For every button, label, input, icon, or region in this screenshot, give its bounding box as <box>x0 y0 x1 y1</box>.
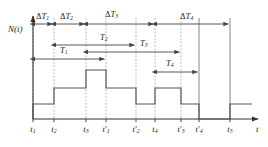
tick-label-t4p: t′4 <box>195 124 202 134</box>
step-function-curve <box>33 70 252 119</box>
step-curve <box>33 70 252 119</box>
interval-label-dT4: ΔT4 <box>180 11 193 21</box>
tick-label-t2: t2 <box>51 124 56 134</box>
interval-label-T4: T4 <box>166 58 174 68</box>
tick-label-t4: t4 <box>152 124 157 134</box>
interval-label-T3: T3 <box>140 38 148 48</box>
interval-label-dT3: ΔT3 <box>105 9 118 19</box>
tick-label-t2p: t′2 <box>132 124 139 134</box>
tick-label-t3: t3 <box>83 124 88 134</box>
interval-label-dT2: ΔT2 <box>60 11 73 21</box>
tick-label-t3p: t′3 <box>177 124 184 134</box>
interval-label-T1: T1 <box>60 45 68 55</box>
y-axis-label: N(t) <box>8 24 23 34</box>
interval-label-T2: T2 <box>100 32 108 42</box>
x-axis-label: t <box>256 124 259 134</box>
gridline-group <box>33 18 230 119</box>
tick-label-t5: t5 <box>227 124 232 134</box>
tick-label-t1: t1 <box>30 124 35 134</box>
tick-label-t1p: t′1 <box>102 124 109 134</box>
timing-diagram-figure: N(t)tΔT1ΔT2ΔT3ΔT4T1T2T3T4t1t2t3t′1t′2t4t… <box>0 0 268 147</box>
interval-label-dT1: ΔT1 <box>36 11 49 21</box>
